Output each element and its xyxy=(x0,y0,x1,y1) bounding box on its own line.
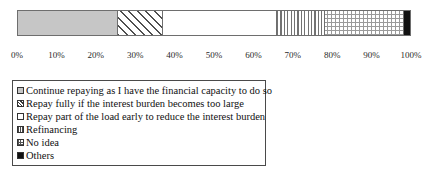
bar-segment-refinancing xyxy=(277,11,324,35)
legend-label-no-idea: No idea xyxy=(26,136,59,149)
legend-label-refinancing: Refinancing xyxy=(26,123,77,136)
axis-tick-4: 40% xyxy=(166,50,183,60)
axis-tick-9: 90% xyxy=(363,50,380,60)
bar-segment-no-idea xyxy=(325,11,404,35)
stacked-bar xyxy=(17,10,411,36)
legend-swatch-white-icon xyxy=(17,113,24,120)
legend-swatch-solid-black-icon xyxy=(17,152,24,159)
legend-swatch-diagonal-hatch-icon xyxy=(17,100,24,107)
axis-tick-7: 70% xyxy=(285,50,302,60)
legend-item-no-idea: No idea xyxy=(17,136,261,149)
axis-tick-0: 0% xyxy=(11,50,23,60)
axis-tick-3: 30% xyxy=(127,50,144,60)
legend-item-refinancing: Refinancing xyxy=(17,123,261,136)
axis-tick-1: 10% xyxy=(48,50,65,60)
axis-tick-2: 20% xyxy=(88,50,105,60)
legend-item-repay-part: Repay part of the load early to reduce t… xyxy=(17,110,261,123)
legend-item-others: Others xyxy=(17,149,261,162)
chart-legend: Continue repaying as I have the financia… xyxy=(12,80,266,166)
bar-segment-repay-fully xyxy=(118,11,163,35)
legend-item-continue-repaying: Continue repaying as I have the financia… xyxy=(17,84,261,97)
legend-swatch-dots-icon xyxy=(17,139,24,146)
legend-label-others: Others xyxy=(26,149,54,162)
legend-label-repay-fully: Repay fully if the interest burden becom… xyxy=(26,97,244,110)
bar-segment-continue-repaying xyxy=(18,11,118,35)
legend-label-repay-part: Repay part of the load early to reduce t… xyxy=(26,110,265,123)
bar-segment-others xyxy=(404,11,410,35)
legend-item-repay-fully: Repay fully if the interest burden becom… xyxy=(17,97,261,110)
axis-tick-5: 50% xyxy=(206,50,223,60)
legend-swatch-solid-gray-icon xyxy=(17,87,24,94)
axis-tick-10: 100% xyxy=(401,50,422,60)
legend-swatch-vertical-stripes-icon xyxy=(17,126,24,133)
legend-label-continue-repaying: Continue repaying as I have the financia… xyxy=(26,84,272,97)
bar-segment-repay-part xyxy=(163,11,277,35)
x-axis: 0% 10% 20% 30% 40% 50% 60% 70% 80% 90% 1… xyxy=(0,50,428,66)
axis-tick-6: 60% xyxy=(245,50,262,60)
stacked-bar-chart-figure: 0% 10% 20% 30% 40% 50% 60% 70% 80% 90% 1… xyxy=(0,0,428,179)
axis-tick-8: 80% xyxy=(324,50,341,60)
